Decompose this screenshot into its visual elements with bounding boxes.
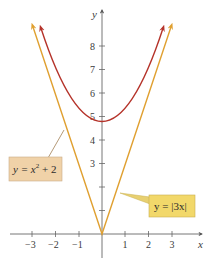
x-tick-label: −3 [25, 239, 36, 250]
x-tick-label: 3 [170, 239, 175, 250]
callout-parabola: y = x2 + 2 [9, 130, 64, 181]
x-tick-label: −1 [72, 239, 83, 250]
y-tick-label: 7 [90, 64, 95, 75]
x-tick-label: 1 [123, 239, 128, 250]
y-tick-label: 3 [90, 158, 95, 169]
y-tick-label: 8 [90, 41, 95, 52]
x-tick-label: −2 [48, 239, 59, 250]
y-tick-label: 4 [90, 135, 95, 146]
y-axis-label: y [91, 8, 97, 20]
callout-abs: y = |3x| [120, 193, 195, 217]
callout-abs-label: y = |3x| [154, 200, 187, 212]
callout-parabola-label: y = x2 + 2 [12, 162, 56, 175]
x-tick-label: 2 [146, 239, 151, 250]
y-tick-label: 6 [90, 88, 95, 99]
y-ticks: 3 4 5 6 7 8 [90, 41, 105, 211]
function-graph: x y −3 −2 −1 1 2 3 3 4 5 6 7 8 [0, 0, 210, 266]
x-axis-label: x [197, 238, 203, 250]
